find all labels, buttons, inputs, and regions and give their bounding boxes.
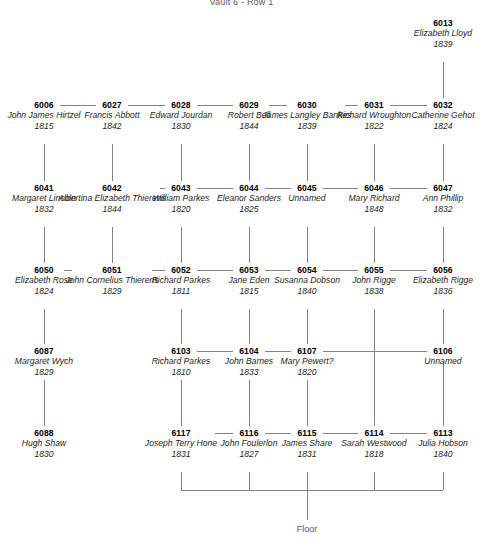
node-year: 1839 <box>401 39 483 49</box>
vault-node[interactable]: 6032Catherine Gehot1824 <box>401 100 483 131</box>
node-id: 6047 <box>401 183 483 193</box>
vault-node[interactable]: 6087Margaret Wych1829 <box>2 346 86 377</box>
node-year: 1830 <box>2 449 86 459</box>
node-name: Unnamed <box>401 356 483 366</box>
node-year: 1836 <box>401 286 483 296</box>
node-id: 6032 <box>401 100 483 110</box>
node-year: 1825 <box>207 204 291 214</box>
vault-node[interactable]: 6056Elizabeth Rigge1836 <box>401 265 483 296</box>
node-id: 6013 <box>401 18 483 28</box>
node-name: Margaret Wych <box>2 356 86 366</box>
node-name: Elizabeth Lloyd <box>401 28 483 38</box>
vault-diagram: Vault 6 - Row 1 6013Elizabeth Lloyd18396… <box>0 0 483 551</box>
node-year: 1820 <box>259 367 355 377</box>
node-id: 6088 <box>2 428 86 438</box>
node-id: 6107 <box>259 346 355 356</box>
node-id: 6087 <box>2 346 86 356</box>
vault-node[interactable]: 6113Julia Hobson1840 <box>401 428 483 459</box>
node-year: 1832 <box>401 204 483 214</box>
vault-node[interactable]: 6106Unnamed <box>401 346 483 367</box>
page-title: Vault 6 - Row 1 <box>0 0 483 7</box>
floor-label: Floor <box>297 524 318 534</box>
node-name: Ann Phillip <box>401 193 483 203</box>
node-name: Julia Hobson <box>401 438 483 448</box>
node-id: 6056 <box>401 265 483 275</box>
vault-node[interactable]: 6088Hugh Shaw1830 <box>2 428 86 459</box>
node-name: Elizabeth Rigge <box>401 275 483 285</box>
node-name: Hugh Shaw <box>2 438 86 448</box>
node-year: 1824 <box>401 121 483 131</box>
node-name: Mary Pewert? <box>259 356 355 366</box>
node-id: 6106 <box>401 346 483 356</box>
node-name: Catherine Gehot <box>401 110 483 120</box>
node-year: 1840 <box>401 449 483 459</box>
vault-node[interactable]: 6047Ann Phillip1832 <box>401 183 483 214</box>
node-id: 6113 <box>401 428 483 438</box>
vault-node[interactable]: 6013Elizabeth Lloyd1839 <box>401 18 483 49</box>
vault-node[interactable]: 6107Mary Pewert?1820 <box>259 346 355 377</box>
node-year: 1829 <box>2 367 86 377</box>
